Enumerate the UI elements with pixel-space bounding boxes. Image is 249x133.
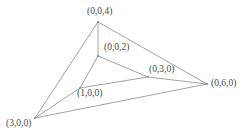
vertex-point-right-inner — [147, 76, 149, 78]
vertex-point-front-outer — [34, 117, 36, 119]
vertex-label-0-0-4: (0,0,4) — [87, 7, 112, 17]
tetrahedron-diagram — [0, 0, 249, 133]
edge-axis-right — [148, 77, 207, 84]
edge-inner-front-to-right — [80, 77, 148, 88]
geometry-figure: (0,0,4) (0,0,2) (0,3,0) (0,6,0) (1,0,0) … — [0, 0, 249, 133]
edge-inner-apex-to-right — [98, 56, 148, 77]
vertex-label-0-3-0: (0,3,0) — [149, 65, 174, 75]
edge-outer-apex-to-front — [35, 22, 98, 118]
edge-inner-apex-to-front — [80, 56, 98, 88]
vertex-label-1-0-0: (1,0,0) — [77, 89, 102, 99]
edge-group — [35, 22, 207, 118]
vertex-point-apex-outer — [97, 21, 99, 23]
vertex-label-3-0-0: (3,0,0) — [6, 119, 31, 129]
vertex-label-0-0-2: (0,0,2) — [104, 43, 129, 53]
vertex-point-apex-inner — [97, 55, 99, 57]
edge-outer-apex-to-right — [98, 22, 207, 84]
vertex-point-right-outer — [206, 83, 208, 85]
vertex-label-0-6-0: (0,6,0) — [211, 79, 236, 89]
